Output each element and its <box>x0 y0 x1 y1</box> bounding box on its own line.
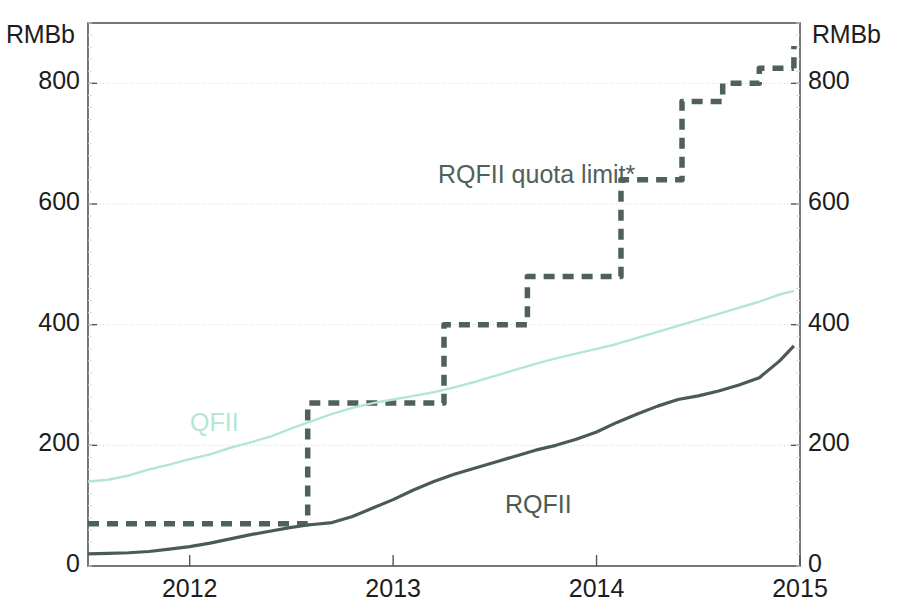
series-path-rqfii-quota-limit <box>88 68 794 524</box>
x-tick-label-2013: 2013 <box>338 574 448 603</box>
y-axis-unit-left: RMBb <box>6 20 75 49</box>
y-tick-label-left-800: 800 <box>10 66 80 95</box>
series-label-rqfii: RQFII <box>505 490 572 519</box>
axis-frame <box>88 23 800 566</box>
y-tick-label-left-0: 0 <box>10 549 80 578</box>
y-tick-label-right-400: 400 <box>808 308 878 337</box>
series-path-qfii <box>88 291 794 482</box>
y-tick-label-left-400: 400 <box>10 308 80 337</box>
y-axis-unit-right: RMBb <box>812 20 881 49</box>
y-tick-label-right-800: 800 <box>808 66 878 95</box>
x-tick-label-2015: 2015 <box>745 574 855 603</box>
y-tick-label-left-200: 200 <box>10 428 80 457</box>
series-label-qfii: QFII <box>190 408 239 437</box>
series-label-quota-limit: RQFII quota limit* <box>438 160 635 189</box>
x-tick-label-2014: 2014 <box>542 574 652 603</box>
x-tick-label-2012: 2012 <box>135 574 245 603</box>
data-series-layer <box>88 46 794 554</box>
chart-container: RMBb RMBb 0 200 400 600 800 0 200 400 60… <box>0 0 899 608</box>
y-axis-ticks <box>88 23 800 566</box>
x-axis-ticks <box>190 555 800 566</box>
y-tick-label-right-200: 200 <box>808 428 878 457</box>
plot-area <box>0 0 899 608</box>
y-tick-label-right-600: 600 <box>808 187 878 216</box>
y-tick-label-left-600: 600 <box>10 187 80 216</box>
